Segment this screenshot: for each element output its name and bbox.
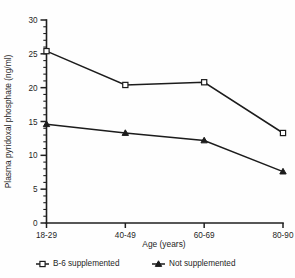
y-tick-label: 20 bbox=[28, 84, 38, 93]
y-tick-label: 25 bbox=[28, 50, 38, 59]
x-tick-label: 18-29 bbox=[36, 231, 57, 240]
chart-figure: 051015202530 18-2940-4960-6980-90 Age (y… bbox=[0, 0, 295, 278]
y-tick-group: 051015202530 bbox=[28, 16, 46, 228]
series-1 bbox=[44, 49, 286, 136]
x-tick-label: 40-49 bbox=[115, 231, 136, 240]
x-tick-label: 80-90 bbox=[273, 231, 294, 240]
series-line bbox=[47, 51, 284, 133]
legend-item-1: B-6 supplemented bbox=[36, 259, 120, 268]
y-tick-label: 15 bbox=[28, 118, 38, 127]
data-point-marker bbox=[44, 49, 49, 54]
data-point-marker bbox=[202, 80, 207, 85]
legend-label: Not supplemented bbox=[169, 259, 236, 268]
y-tick-label: 0 bbox=[33, 219, 38, 228]
line-chart: 051015202530 18-2940-4960-6980-90 Age (y… bbox=[0, 0, 295, 278]
y-tick-label: 10 bbox=[28, 151, 38, 160]
legend-label: B-6 supplemented bbox=[53, 259, 120, 268]
data-point-marker bbox=[123, 82, 128, 87]
y-tick-label: 30 bbox=[28, 16, 38, 25]
chart-legend: B-6 supplementedNot supplemented bbox=[36, 259, 236, 268]
x-tick-label: 60-69 bbox=[194, 231, 215, 240]
series-layer bbox=[43, 49, 286, 174]
series-2 bbox=[43, 121, 286, 174]
data-point-marker bbox=[280, 130, 285, 135]
legend-item-2: Not supplemented bbox=[152, 259, 236, 268]
y-axis-title: Plasma pyridoxal phosphate (ng/ml) bbox=[3, 54, 13, 188]
y-tick-label: 5 bbox=[33, 185, 38, 194]
x-tick-group: 18-2940-4960-6980-90 bbox=[36, 223, 294, 240]
legend-marker bbox=[40, 261, 45, 266]
series-line bbox=[47, 124, 284, 171]
x-axis-title: Age (years) bbox=[142, 239, 185, 249]
